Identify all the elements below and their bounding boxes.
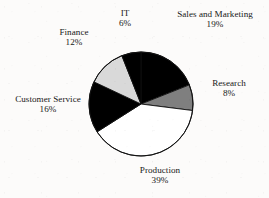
pie-label-it: IT 6% [103,8,147,28]
pie-label-sales-and-marketing-name: Sales and Marketing [163,9,267,19]
pie-label-customer-service-value: 16% [5,104,91,114]
pie-label-research-value: 8% [196,88,262,98]
pie-label-production-name: Production [122,165,198,175]
pie-label-sales-and-marketing: Sales and Marketing 19% [163,9,267,29]
pie-label-research: Research 8% [196,78,262,98]
pie-label-research-name: Research [196,78,262,88]
pie-label-finance: Finance 12% [40,27,108,47]
pie-label-customer-service: Customer Service 16% [5,94,91,114]
pie-label-sales-and-marketing-value: 19% [163,19,267,29]
pie-label-it-name: IT [103,8,147,18]
pie-label-production-value: 39% [122,175,198,185]
pie-label-production: Production 39% [122,165,198,185]
pie-label-it-value: 6% [103,18,147,28]
pie-label-finance-value: 12% [40,37,108,47]
pie-label-finance-name: Finance [40,27,108,37]
pie-label-customer-service-name: Customer Service [5,94,91,104]
pie-chart-figure: IT 6% Sales and Marketing 19% Finance 12… [0,0,269,198]
